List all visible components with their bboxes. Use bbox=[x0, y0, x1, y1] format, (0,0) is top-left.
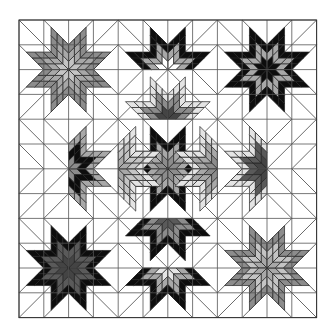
quilt-diagram: Lone Star quilt layout bbox=[0, 0, 334, 333]
quilt-canvas bbox=[0, 0, 334, 333]
